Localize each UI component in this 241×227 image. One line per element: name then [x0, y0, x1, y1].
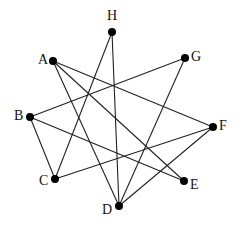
node-a [49, 57, 57, 65]
edge-a-f [53, 61, 213, 127]
node-e [180, 177, 188, 185]
node-label-f: F [219, 119, 227, 133]
node-f [209, 123, 217, 131]
edge-f-d [119, 127, 213, 206]
nodes-group [26, 28, 217, 210]
node-d [115, 202, 123, 210]
edge-a-d [53, 61, 119, 206]
edge-a-e [53, 61, 184, 181]
node-label-c: C [39, 174, 48, 188]
node-label-e: E [190, 178, 199, 192]
node-label-d: D [102, 203, 112, 217]
graph-diagram: HAGBFCED [0, 0, 241, 227]
graph-canvas [0, 0, 241, 227]
node-h [108, 28, 116, 36]
node-g [181, 54, 189, 62]
node-b [26, 113, 34, 121]
node-label-a: A [38, 53, 48, 67]
node-label-b: B [14, 109, 23, 123]
edge-g-d [119, 58, 185, 206]
node-label-h: H [107, 9, 117, 23]
node-c [51, 175, 59, 183]
edge-h-d [112, 32, 119, 206]
edge-g-b [30, 58, 185, 117]
edge-h-c [55, 32, 112, 179]
node-label-g: G [191, 50, 201, 64]
